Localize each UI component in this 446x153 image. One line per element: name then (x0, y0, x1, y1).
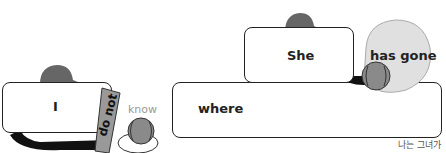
translation-text: 나는 그녀가 (398, 138, 441, 151)
glove-ball-icon (116, 115, 166, 153)
clause-subject-word: She (287, 48, 314, 63)
connector-word: where (198, 101, 243, 116)
subject-word: I (53, 99, 58, 114)
clause-verb-word: has gone (370, 48, 437, 63)
